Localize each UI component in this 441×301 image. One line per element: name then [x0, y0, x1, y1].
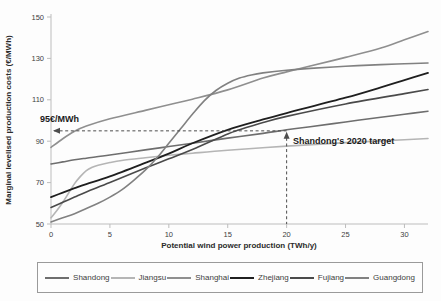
y-tick-label: 110: [32, 95, 44, 104]
x-tick-label: 20: [282, 230, 290, 239]
up-arrow-icon: [284, 132, 290, 139]
left-arrow-icon: [53, 128, 60, 134]
y-tick-label: 130: [31, 54, 44, 63]
x-axis-title: Potential wind power production (TWh/y): [161, 241, 317, 250]
x-tick-label: 30: [400, 230, 408, 239]
legend-line-swatch: [230, 277, 254, 279]
legend-label: Fujiang: [318, 273, 344, 282]
legend-item-jiangsu: Jiangsu: [111, 273, 167, 282]
legend-label: Guangdong: [373, 273, 415, 282]
legend-line-swatch: [345, 277, 369, 279]
x-tick-label: 0: [49, 230, 53, 239]
y-tick-label: 70: [36, 178, 44, 187]
y-tick-label: 90: [36, 137, 44, 146]
legend-label: Zhejiang: [258, 273, 289, 282]
legend-line-swatch: [290, 277, 314, 279]
axes: 507090110130150051015202530: [31, 13, 428, 240]
legend-line-swatch: [167, 277, 191, 279]
series-lines: [51, 31, 428, 221]
legend-line-swatch: [111, 277, 135, 279]
series-line-fujiang: [51, 89, 428, 207]
y-tick-label: 50: [36, 220, 44, 229]
price-annotation-label: 95€/MWh: [40, 114, 79, 124]
x-tick-label: 25: [341, 230, 349, 239]
x-tick-label: 5: [108, 230, 112, 239]
legend-item-shanghai: Shanghai: [167, 273, 229, 282]
legend: ShandongJiangsuShanghaiZhejiangFujiangGu…: [37, 262, 423, 293]
figure: 507090110130150051015202530 Marginal lev…: [0, 0, 441, 301]
legend-line-swatch: [45, 277, 69, 279]
legend-item-guangdong: Guangdong: [345, 273, 415, 282]
x-tick-label: 10: [165, 230, 173, 239]
target-annotation-label: Shandong's 2020 target: [293, 136, 394, 146]
legend-label: Shandong: [73, 273, 109, 282]
legend-item-shandong: Shandong: [45, 273, 109, 282]
y-axis-title: Marginal levelised production costs (€/M…: [4, 35, 13, 205]
wind-cost-chart: 507090110130150051015202530 Marginal lev…: [0, 0, 441, 258]
legend-item-fujiang: Fujiang: [290, 273, 344, 282]
y-tick-label: 150: [31, 13, 44, 22]
legend-label: Jiangsu: [139, 273, 167, 282]
annotation-arrows: [53, 128, 290, 224]
x-tick-label: 15: [224, 230, 232, 239]
legend-item-zhejiang: Zhejiang: [230, 273, 289, 282]
legend-label: Shanghai: [195, 273, 229, 282]
series-line-zhejiang: [51, 73, 428, 197]
